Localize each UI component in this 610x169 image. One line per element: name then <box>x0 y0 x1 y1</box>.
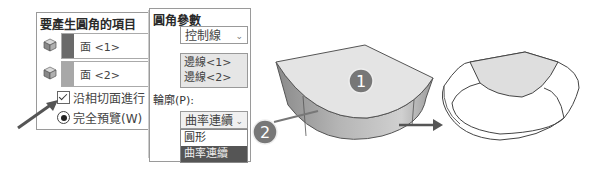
profile-select[interactable]: 曲率連續 ⌄ <box>180 111 248 129</box>
fillet-items-title: 要產生圓角的項目 <box>40 15 136 32</box>
full-preview-radio[interactable]: 完全預覽(W) <box>57 109 142 126</box>
result-arrow-icon <box>397 118 445 132</box>
svg-text:1: 1 <box>356 72 366 91</box>
pointer-arrow-icon <box>16 98 60 132</box>
profile-option-curvature-continuous[interactable]: 曲率連續 <box>181 146 247 162</box>
face-2-label: 面 <2> <box>80 66 120 82</box>
part-before-illustration: 1 <box>262 40 442 150</box>
face-1-label: 面 <1> <box>80 38 120 54</box>
part-after-illustration <box>440 40 610 150</box>
fillet-params-panel: 圓角參數 控制線 ⌄ 邊線<1> 邊線<2> 輪廓(P): 曲率連續 ⌄ 圓形 … <box>149 8 251 162</box>
face-cube-icon <box>43 38 57 52</box>
tangent-propagation-checkbox[interactable]: 沿相切面進行 <box>57 89 145 106</box>
svg-text:2: 2 <box>260 123 270 142</box>
profile-select-value: 曲率連續 <box>185 114 233 128</box>
full-preview-label: 完全預覽(W) <box>73 112 142 126</box>
chevron-down-icon: ⌄ <box>235 112 243 130</box>
profile-option-circular[interactable]: 圓形 <box>181 130 247 146</box>
edge-list[interactable]: 邊線<1> 邊線<2> <box>180 53 248 88</box>
face-1-field[interactable]: 面 <1> <box>61 33 149 59</box>
method-select[interactable]: 控制線 ⌄ <box>180 26 248 44</box>
callout-1: 1 <box>349 69 373 93</box>
chevron-down-icon: ⌄ <box>235 27 243 45</box>
face-2-field[interactable]: 面 <2> <box>61 61 149 87</box>
face-1-color-swatch <box>62 34 74 58</box>
face-cube-icon <box>43 66 57 80</box>
edge-list-item[interactable]: 邊線<2> <box>184 70 244 85</box>
profile-label: 輪廓(P): <box>153 91 194 107</box>
face-selection-row-2[interactable]: 面 <2> <box>41 61 147 85</box>
tangent-propagation-label: 沿相切面進行 <box>73 92 145 106</box>
callout-2-badge: 2 <box>250 117 280 147</box>
edge-list-item[interactable]: 邊線<1> <box>184 55 244 70</box>
profile-dropdown-list: 圓形 曲率連續 <box>180 129 248 163</box>
method-select-value: 控制線 <box>185 29 221 43</box>
face-2-color-swatch <box>62 62 74 86</box>
face-selection-row-1[interactable]: 面 <1> <box>41 33 147 57</box>
